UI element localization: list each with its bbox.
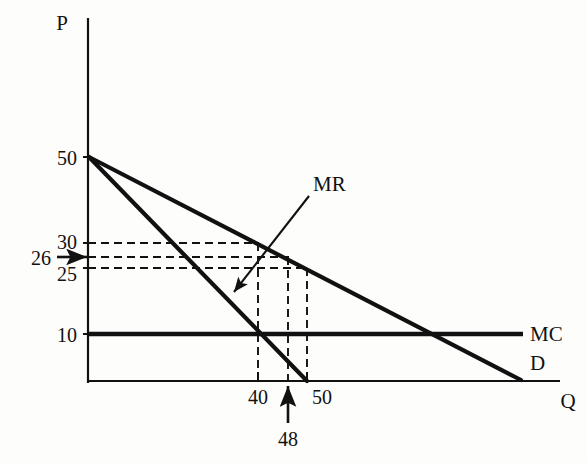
x-axis-label: Q: [560, 389, 575, 413]
y-tick-label-10: 10: [57, 324, 77, 346]
price-pointer-label: 26: [31, 247, 51, 269]
demand-curve-label: D: [530, 351, 545, 375]
horizontal-guide-lines: [88, 243, 308, 268]
mr-callout-leader-line: [234, 196, 309, 292]
y-axis-label: P: [56, 11, 68, 35]
economics-diagram: P Q 50 30 25 10 26 40 50 48 MR MC D: [0, 0, 587, 463]
y-tick-label-30: 30: [57, 231, 77, 253]
quantity-pointer-label: 48: [278, 428, 298, 450]
x-tick-label-50: 50: [312, 386, 332, 408]
marginal-revenue-curve: [89, 157, 307, 381]
axes-group: [88, 18, 560, 383]
plot-canvas: P Q 50 30 25 10 26 40 50 48 MR MC D: [0, 0, 587, 463]
mr-callout-label: MR: [313, 172, 346, 196]
y-tick-label-25: 25: [57, 263, 77, 285]
marginal-cost-label: MC: [530, 322, 563, 346]
y-tick-label-50: 50: [57, 147, 77, 169]
x-tick-label-40: 40: [248, 386, 268, 408]
